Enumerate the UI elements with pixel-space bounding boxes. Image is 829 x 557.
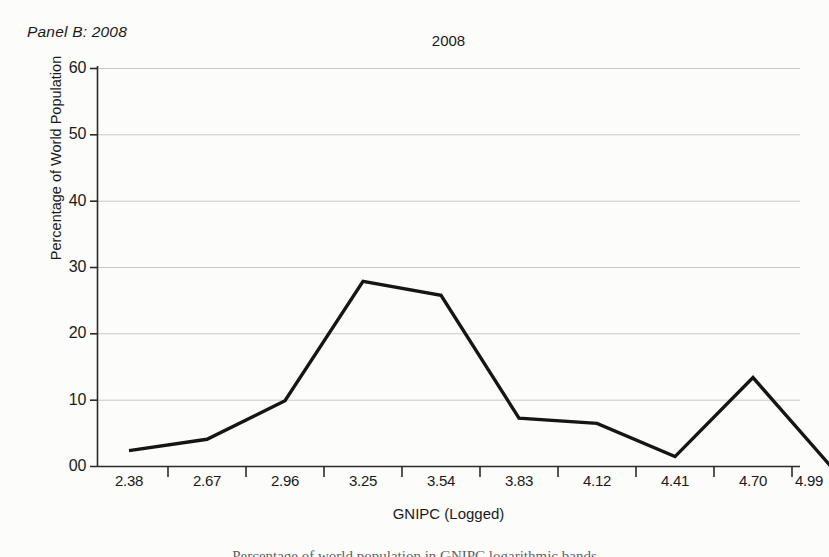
axis-lines	[90, 66, 800, 467]
x-tick-label: 4.41	[640, 472, 710, 489]
figure-caption: Percentage of world population in GNIPC …	[0, 543, 829, 557]
data-series-line	[129, 281, 829, 466]
x-tick-label: 3.54	[406, 472, 476, 489]
chart-figure: Percentage of World Population 60 50 40 …	[0, 0, 829, 557]
x-axis-label: GNIPC (Logged)	[97, 505, 800, 522]
x-tick-label: 2.38	[94, 472, 164, 489]
x-tick-label: 4.12	[562, 472, 632, 489]
x-tick-label: 3.83	[484, 472, 554, 489]
x-tick-label: 3.25	[328, 472, 398, 489]
y-axis-ticks	[90, 69, 97, 401]
x-tick-label: 2.67	[172, 472, 242, 489]
x-tick-label: 4.99	[774, 472, 829, 489]
x-tick-label: 2.96	[250, 472, 320, 489]
gridlines	[97, 69, 800, 401]
